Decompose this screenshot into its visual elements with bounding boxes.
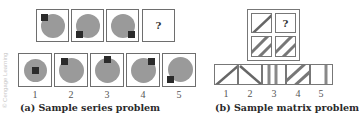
matrix-option-4-number: 4 (288, 88, 308, 99)
series-option-1-number: 1 (25, 89, 45, 100)
diagonal-line-icon (252, 14, 272, 33)
matrix-option-5[interactable] (310, 64, 333, 85)
series-option-5-number: 5 (169, 89, 189, 100)
series-option-2-number: 2 (61, 89, 81, 100)
series-option-4-number: 4 (133, 89, 153, 100)
square-marker (76, 31, 83, 38)
series-option-2[interactable] (54, 53, 88, 87)
question-mark: ? (143, 10, 174, 41)
hatched-vertical-icon (263, 65, 286, 85)
copyright-watermark: © Cengage Learning (2, 53, 8, 108)
matrix-cell-4 (275, 36, 296, 57)
series-item-unknown: ? (142, 9, 175, 42)
series-caption: (a) Sample series problem (20, 102, 160, 113)
series-item-2 (71, 9, 104, 42)
matrix-cell-unknown: ? (275, 13, 296, 33)
hatched-diagonal-icon (287, 65, 310, 85)
matrix-cell-3 (251, 36, 272, 57)
reverse-diagonal-line-icon (239, 65, 262, 85)
square-marker (41, 14, 48, 21)
question-mark: ? (276, 14, 295, 32)
series-option-4[interactable] (126, 53, 160, 87)
matrix-cell-1 (251, 13, 272, 33)
hatched-diagonal-icon (276, 37, 296, 57)
matrix-option-3[interactable] (262, 64, 286, 85)
square-marker (167, 76, 174, 83)
hatched-diagonal-icon (252, 37, 272, 57)
matrix-caption: (b) Sample matrix problem (215, 102, 359, 113)
square-marker (104, 56, 111, 63)
matrix-option-5-number: 5 (311, 88, 331, 99)
matrix-option-1[interactable] (214, 64, 238, 85)
matrix-option-1-number: 1 (216, 88, 236, 99)
matrix-option-4[interactable] (286, 64, 310, 85)
matrix-option-2-number: 2 (240, 88, 260, 99)
series-option-1[interactable] (18, 53, 52, 87)
series-option-3-number: 3 (97, 89, 117, 100)
series-option-5[interactable] (162, 53, 196, 87)
matrix-option-2[interactable] (238, 64, 262, 85)
matrix-option-3-number: 3 (264, 88, 284, 99)
series-option-3[interactable] (90, 53, 124, 87)
series-item-1 (36, 9, 69, 42)
square-marker (61, 58, 68, 65)
vertical-line-icon (311, 65, 333, 85)
series-item-3 (106, 9, 139, 42)
square-marker (128, 31, 135, 38)
square-marker (32, 67, 39, 74)
diagonal-line-icon (215, 65, 238, 85)
square-marker (148, 58, 155, 65)
